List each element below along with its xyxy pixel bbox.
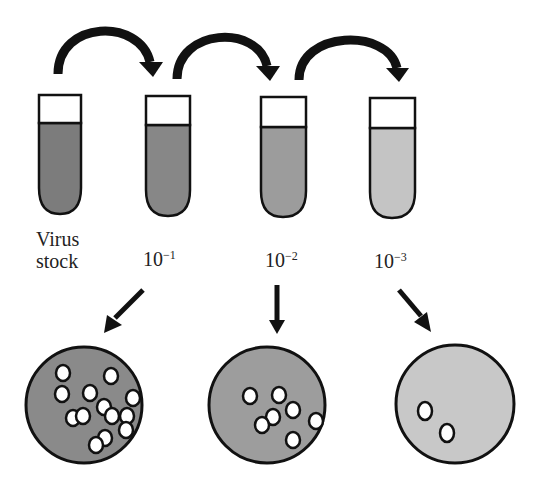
label-line-1: Virus	[36, 228, 79, 250]
tube-dilution-3	[370, 98, 415, 218]
transfer-arrows	[58, 31, 409, 82]
transfer-arrow-d1-to-d2	[177, 37, 267, 79]
label-dilution-1: 10−1	[143, 244, 176, 270]
transfer-arrow-d2-to-d3	[299, 40, 397, 80]
plating-arrow-d1	[115, 290, 143, 318]
plate-dilution-3	[396, 345, 514, 463]
label-dilution-2: 10−2	[265, 245, 298, 271]
plate-dilution-1	[26, 347, 142, 463]
label-base: 10	[265, 249, 285, 271]
label-virus-stock: Virus stock	[36, 228, 79, 272]
label-line-2: stock	[36, 250, 79, 272]
tube-dilution-1	[146, 96, 190, 216]
label-exponent: −2	[285, 249, 298, 263]
label-base: 10	[374, 250, 394, 272]
tube-dilution-2	[261, 97, 306, 217]
label-exponent: −1	[163, 248, 176, 262]
arrowhead-icon	[386, 68, 409, 82]
arrowhead-icon	[256, 66, 280, 81]
plating-arrow-d3	[399, 290, 421, 316]
arrowhead-icon	[139, 62, 163, 77]
plating-arrows	[104, 285, 431, 334]
tube-virus-stock	[39, 95, 81, 214]
plate-dilution-2	[209, 347, 325, 463]
label-exponent: −3	[394, 250, 407, 264]
arrowhead-icon	[104, 315, 122, 333]
transfer-arrow-stock-to-d1	[58, 31, 150, 74]
label-dilution-3: 10−3	[374, 246, 407, 272]
label-base: 10	[143, 248, 163, 270]
arrowhead-icon	[269, 320, 285, 334]
arrowhead-icon	[414, 312, 431, 332]
